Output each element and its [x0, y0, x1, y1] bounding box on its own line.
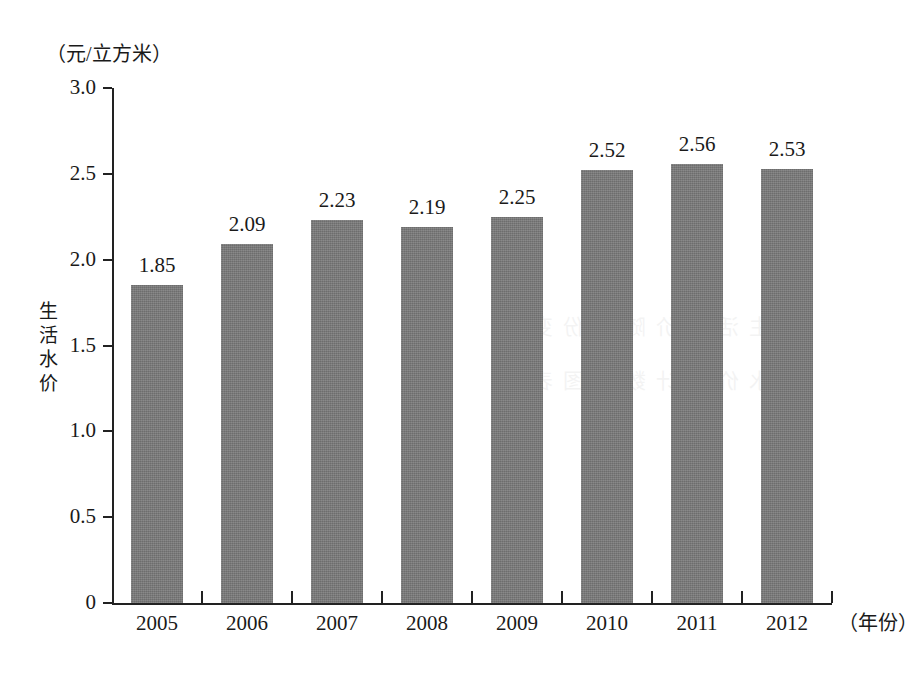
x-tick-label: 2011 — [652, 611, 742, 635]
x-tick-mark — [651, 591, 653, 603]
bar — [491, 217, 543, 603]
y-tick-label: 2.5 — [34, 163, 96, 184]
bar — [221, 244, 273, 603]
y-tick-label-text: 1.5 — [40, 335, 96, 356]
y-tick-label-text: 2.0 — [40, 249, 96, 270]
x-tick-mark — [471, 591, 473, 603]
y-tick-mark — [103, 345, 112, 347]
y-tick-label: 1.0 — [34, 420, 96, 441]
y-tick-label: 1.5 — [34, 335, 96, 356]
y-tick-mark — [103, 173, 112, 175]
bar-value-label: 2.09 — [202, 214, 292, 235]
bar-value-label: 2.52 — [562, 140, 652, 161]
y-tick-label-text: 1.0 — [40, 420, 96, 441]
y-tick-mark — [103, 516, 112, 518]
y-axis-line — [112, 88, 114, 605]
x-axis-line — [112, 603, 832, 605]
y-tick-mark — [103, 259, 112, 261]
bar — [761, 169, 813, 603]
y-tick-label: 3.0 — [34, 77, 96, 98]
y-tick-label-text: 0 — [40, 592, 96, 613]
x-tick-mark — [831, 591, 833, 603]
bar-value-label: 2.56 — [652, 134, 742, 155]
x-tick-mark — [291, 591, 293, 603]
x-tick-mark — [741, 591, 743, 603]
y-tick-label: 0 — [34, 592, 96, 613]
y-tick-mark — [103, 430, 112, 432]
bar-value-label: 2.25 — [472, 187, 562, 208]
x-tick-label: 2009 — [472, 611, 562, 635]
y-tick-label-text: 2.5 — [40, 163, 96, 184]
x-tick-label: 2005 — [112, 611, 202, 635]
y-axis-unit-caption: （元/立方米） — [46, 38, 172, 67]
x-tick-label: 2012 — [742, 611, 832, 635]
bar — [401, 227, 453, 603]
y-tick-label-text: 3.0 — [40, 77, 96, 98]
x-tick-label: 2007 — [292, 611, 382, 635]
bar — [581, 170, 633, 603]
bar-value-label: 2.23 — [292, 190, 382, 211]
x-tick-label: 2010 — [562, 611, 652, 635]
x-tick-label: 2006 — [202, 611, 292, 635]
bar — [671, 164, 723, 603]
bar-value-label: 2.53 — [742, 139, 832, 160]
y-tick-label-text: 0.5 — [40, 506, 96, 527]
bar — [311, 220, 363, 603]
y-tick-label: 2.0 — [34, 249, 96, 270]
x-tick-mark — [201, 591, 203, 603]
y-tick-mark — [103, 87, 112, 89]
x-tick-label: 2008 — [382, 611, 472, 635]
x-tick-mark — [561, 591, 563, 603]
bar-value-label: 1.85 — [112, 255, 202, 276]
bar-value-label: 2.19 — [382, 197, 472, 218]
x-tick-mark — [381, 591, 383, 603]
y-tick-label: 0.5 — [34, 506, 96, 527]
y-tick-mark — [103, 602, 112, 604]
bar — [131, 285, 183, 603]
x-axis-title: （年份） — [838, 611, 909, 635]
